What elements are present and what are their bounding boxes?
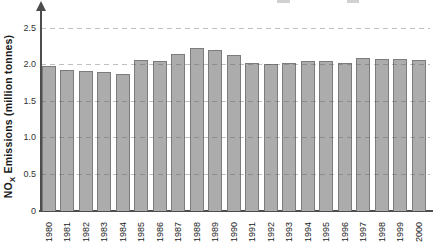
gridline-1.5 xyxy=(41,101,430,102)
gridline-2.5 xyxy=(41,28,430,29)
y-tick-label-1.0: 1.0 xyxy=(14,133,36,142)
y-tick-label-2.0: 2.0 xyxy=(14,60,36,69)
y-axis-label-prefix: NO xyxy=(2,182,14,198)
bar-1997 xyxy=(356,58,370,211)
x-tick-label-1986: 1986 xyxy=(155,212,165,242)
bar-1988 xyxy=(190,48,204,211)
x-tick-label-1984: 1984 xyxy=(118,212,128,242)
x-tick-label-1980: 1980 xyxy=(44,212,54,242)
x-tick-label-1998: 1998 xyxy=(377,212,387,242)
bar-1981 xyxy=(60,70,74,211)
bar-1999 xyxy=(393,59,407,211)
y-tick-label-2.5: 2.5 xyxy=(14,24,36,33)
plot-area xyxy=(40,0,432,211)
y-tick-label-1.5: 1.5 xyxy=(14,97,36,106)
bar-1995 xyxy=(319,61,333,211)
x-tick-label-1994: 1994 xyxy=(303,212,313,242)
x-tick-label-1992: 1992 xyxy=(266,212,276,242)
x-tick-label-1981: 1981 xyxy=(62,212,72,242)
x-tick-label-1993: 1993 xyxy=(284,212,294,242)
gridline-2.0 xyxy=(41,64,430,65)
bar-1994 xyxy=(301,61,315,211)
gridline-1.0 xyxy=(41,137,430,138)
x-tick-label-1990: 1990 xyxy=(229,212,239,242)
y-tick-label-0: 0 xyxy=(14,207,36,216)
bar-1986 xyxy=(153,61,167,211)
nox-emissions-bar-chart: NOX Emissions (million tonnes) 00.51.01.… xyxy=(0,0,436,243)
bar-1990 xyxy=(227,55,241,211)
bar-2000 xyxy=(412,60,426,211)
x-tick-label-1988: 1988 xyxy=(192,212,202,242)
x-tick-label-1983: 1983 xyxy=(99,212,109,242)
bar-1998 xyxy=(375,59,389,211)
x-tick-label-1982: 1982 xyxy=(81,212,91,242)
y-tick-label-0.5: 0.5 xyxy=(14,170,36,179)
x-tick-label-1997: 1997 xyxy=(358,212,368,242)
bar-1982 xyxy=(79,71,93,211)
x-tick-label-1995: 1995 xyxy=(321,212,331,242)
x-tick-label-1996: 1996 xyxy=(340,212,350,242)
bar-1980 xyxy=(42,66,56,211)
x-tick-label-1991: 1991 xyxy=(247,212,257,242)
y-axis-label: NOX Emissions (million tonnes) xyxy=(2,7,17,227)
bar-1984 xyxy=(116,74,130,211)
x-tick-label-1989: 1989 xyxy=(210,212,220,242)
gridline-0.5 xyxy=(41,174,430,175)
x-tick-label-2000: 2000 xyxy=(414,212,424,242)
bar-1985 xyxy=(134,60,148,211)
bar-1983 xyxy=(97,72,111,211)
x-tick-label-1999: 1999 xyxy=(395,212,405,242)
bar-1987 xyxy=(171,54,185,211)
x-tick-label-1985: 1985 xyxy=(136,212,146,242)
bar-1989 xyxy=(208,50,222,211)
y-axis-label-rest: Emissions (million tonnes) xyxy=(2,35,14,177)
x-tick-label-1987: 1987 xyxy=(173,212,183,242)
